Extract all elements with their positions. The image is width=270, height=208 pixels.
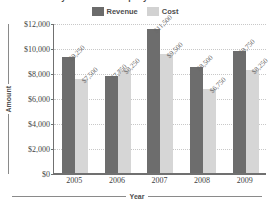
bar-revenue-2005[interactable] <box>62 57 75 173</box>
x-axis-tick-label: 2009 <box>237 176 253 185</box>
x-axis-rule-left <box>12 196 126 197</box>
x-axis-tick-label: 2005 <box>66 176 82 185</box>
bar-revenue-2009[interactable] <box>233 51 246 173</box>
bar-cost-2008[interactable] <box>203 89 216 173</box>
bar-cost-2009[interactable] <box>246 70 259 173</box>
y-axis-rule-bottom <box>8 114 9 174</box>
legend-item-cost: Cost <box>147 7 179 16</box>
bar-revenue-2008[interactable] <box>190 67 203 173</box>
x-axis-rule-right <box>148 196 262 197</box>
bar-revenue-2007[interactable] <box>147 29 160 173</box>
bar-group <box>54 24 97 173</box>
legend-swatch-cost <box>147 7 159 16</box>
bar-group <box>182 24 225 173</box>
y-axis-tick-label: $12,000 <box>24 20 50 29</box>
y-axis-tick-labels: $12,000$10,000$8,000$6,000$4,000$2,000$0 <box>14 24 52 174</box>
y-axis-tick-label: $0 <box>42 170 50 179</box>
legend-swatch-revenue <box>92 7 104 16</box>
x-axis-title-group: Year <box>12 190 262 202</box>
x-axis-tick-label: 2008 <box>194 176 210 185</box>
x-axis-tick-label: 2007 <box>152 176 168 185</box>
bar-cost-2005[interactable] <box>75 79 88 173</box>
chart-legend: Revenue Cost <box>0 7 270 16</box>
chart-title: Lazy Daze Bike Company Revenue and Cost <box>0 0 270 2</box>
bar-cost-2006[interactable] <box>118 70 131 173</box>
y-axis-tickmark <box>51 174 54 175</box>
bar-chart: Lazy Daze Bike Company Revenue and Cost … <box>0 0 270 208</box>
legend-item-revenue: Revenue <box>92 7 138 16</box>
legend-label-revenue: Revenue <box>107 7 138 16</box>
bar-revenue-2006[interactable] <box>105 76 118 173</box>
y-axis-rule-top <box>8 24 9 84</box>
bar-group <box>97 24 140 173</box>
x-axis-title: Year <box>126 193 149 200</box>
y-axis-tick-label: $8,000 <box>28 70 50 79</box>
y-axis-tick-label: $10,000 <box>24 45 50 54</box>
bar-cost-2007[interactable] <box>160 54 173 173</box>
y-axis-tick-label: $4,000 <box>28 120 50 129</box>
y-axis-tick-label: $6,000 <box>28 95 50 104</box>
bars-layer: $9,250$7,500$7,750$8,250$11,500$9,500$8,… <box>54 24 266 173</box>
x-axis-tick-labels: 20052006200720082009 <box>53 176 266 188</box>
y-axis-title: Amount <box>5 84 12 114</box>
x-axis-tick-label: 2006 <box>109 176 125 185</box>
gridline <box>54 174 266 175</box>
plot-area: $9,250$7,500$7,750$8,250$11,500$9,500$8,… <box>53 24 266 174</box>
y-axis-tick-label: $2,000 <box>28 145 50 154</box>
